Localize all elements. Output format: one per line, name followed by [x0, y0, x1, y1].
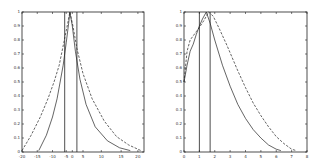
y-tick-label: 0.2	[176, 121, 183, 126]
series-line-solid	[184, 12, 281, 151]
series-line-dashed	[184, 12, 296, 151]
y-tick-label: 0.3	[14, 107, 21, 112]
series-line-solid	[39, 12, 130, 151]
y-tick-label: 1	[179, 9, 182, 14]
x-tick-label: -20	[19, 154, 26, 159]
y-tick-label: 0.4	[14, 93, 21, 98]
x-tick-label: 8	[306, 154, 309, 159]
y-tick-label: 0.9	[14, 23, 21, 28]
x-tick-label: 1	[198, 154, 201, 159]
y-tick-label: 0.1	[14, 135, 21, 140]
x-tick-label: 5	[82, 154, 85, 159]
x-tick-label: 4	[244, 154, 247, 159]
x-tick-label: 0	[71, 154, 74, 159]
y-tick-label: 0.2	[14, 121, 21, 126]
y-tick-label: 0.8	[14, 37, 21, 42]
y-tick-label: 0.7	[176, 51, 183, 56]
x-tick-label: 15	[119, 154, 125, 159]
x-tick-label: 3	[229, 154, 232, 159]
x-tick-label: -5	[64, 154, 68, 159]
x-tick-label: 7	[290, 154, 293, 159]
left-plot: 00.10.20.30.40.50.60.70.80.91-20-15-10-5…	[14, 9, 144, 159]
x-tick-label: 2	[213, 154, 216, 159]
y-tick-label: 0.1	[176, 135, 183, 140]
chart-canvas: 00.10.20.30.40.50.60.70.80.91-20-15-10-5…	[0, 0, 323, 163]
x-tick-label: 10	[99, 154, 105, 159]
y-tick-label: 0.5	[14, 79, 21, 84]
right-plot: 00.10.20.30.40.50.60.70.80.91012345678	[176, 9, 309, 159]
x-tick-label: -10	[49, 154, 56, 159]
y-tick-label: 1	[17, 9, 20, 14]
y-tick-label: 0.8	[176, 37, 183, 42]
x-tick-label: -15	[34, 154, 41, 159]
y-tick-label: 0.9	[176, 23, 183, 28]
y-tick-label: 0.3	[176, 107, 183, 112]
y-tick-label: 0.7	[14, 51, 21, 56]
x-tick-label: 5	[260, 154, 263, 159]
y-tick-label: 0.6	[176, 65, 183, 70]
plot-frame	[184, 12, 307, 152]
y-tick-label: 0.4	[176, 93, 183, 98]
y-tick-label: 0.5	[176, 79, 183, 84]
plot-frame	[22, 12, 144, 152]
x-tick-label: 0	[183, 154, 186, 159]
x-tick-label: 20	[135, 154, 141, 159]
y-tick-label: 0.6	[14, 65, 21, 70]
x-tick-label: 6	[275, 154, 278, 159]
series-line-dashed	[22, 12, 141, 151]
